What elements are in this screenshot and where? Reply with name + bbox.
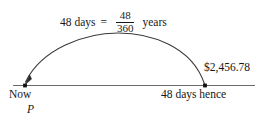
label-principal-p: P [27, 104, 34, 116]
label-now: Now [9, 89, 31, 101]
equals-sign: = [100, 17, 107, 29]
fraction-denominator: 360 [116, 23, 135, 35]
equation-right-side-units: years [142, 17, 166, 29]
equation-48-days-equals-fraction: 48 days = 48 360 years [60, 10, 167, 35]
label-future-amount: $2,456.78 [204, 62, 250, 74]
equation-left-side: 48 days [60, 17, 95, 29]
timeline-point-now [23, 84, 27, 88]
timeline-point-hence [203, 84, 207, 88]
fraction-numerator: 48 [119, 10, 132, 22]
label-48-days-hence: 48 days hence [161, 89, 226, 101]
interest-arc [26, 33, 205, 84]
fraction-48-over-360: 48 360 [116, 10, 135, 35]
